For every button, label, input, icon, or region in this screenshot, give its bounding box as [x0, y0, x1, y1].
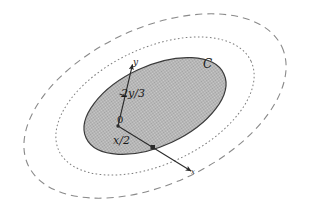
origin-point — [116, 124, 119, 127]
x-axis-tick — [151, 145, 156, 150]
inner-shaded-ellipse — [69, 38, 241, 175]
figure-container: y 2y/3 0 x/2 x C — [0, 0, 311, 212]
ellipse-diagram-svg — [0, 0, 311, 212]
